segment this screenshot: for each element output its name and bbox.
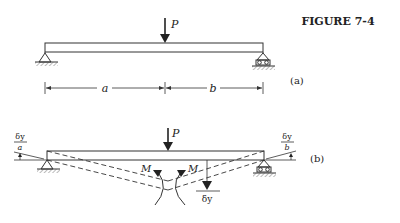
roller-support-right-a xyxy=(252,52,275,70)
right-slope-denominator: b xyxy=(284,143,289,152)
dimension-label-a: a xyxy=(102,82,109,95)
deflection-arrow xyxy=(196,160,220,191)
right-slope-indicator xyxy=(264,151,296,160)
left-slope-indicator xyxy=(14,152,47,160)
load-arrow-a xyxy=(160,18,170,43)
left-slope-denominator: a xyxy=(18,143,23,152)
dimension-line-a xyxy=(45,82,263,94)
part-a-label: (a) xyxy=(290,75,304,86)
dimension-label-b: b xyxy=(209,82,216,95)
moment-label-right: M xyxy=(187,163,199,174)
deflection-label: δy xyxy=(202,194,213,204)
beam-diagram: FIGURE 7-4 P xyxy=(0,0,400,223)
part-b: δy a δy b P M M xyxy=(14,127,324,205)
part-a: P a b (a) xyxy=(35,18,304,95)
right-slope-numerator: δy xyxy=(282,132,292,141)
left-slope-numerator: δy xyxy=(15,132,25,141)
figure-title: FIGURE 7-4 xyxy=(301,15,375,28)
moment-label-left: M xyxy=(140,163,152,174)
beam-a xyxy=(45,43,263,52)
load-label-b: P xyxy=(171,127,180,140)
load-label-a: P xyxy=(170,18,179,31)
pin-support-left-a xyxy=(35,52,58,66)
part-b-label: (b) xyxy=(310,153,324,164)
